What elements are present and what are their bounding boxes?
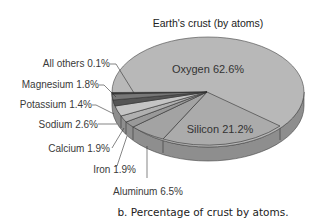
chart-title: Earth's crust (by atoms) xyxy=(153,17,264,29)
label-magnesium: Magnesium 1.8% xyxy=(22,79,99,90)
pie-chart: Earth's crust (by atoms) Oxygen 62.6% Si… xyxy=(0,0,320,221)
label-silicon: Silicon 21.2% xyxy=(187,123,254,135)
label-calcium: Calcium 1.9% xyxy=(48,143,110,154)
label-iron: Iron 1.9% xyxy=(93,164,136,175)
label-aluminum: Aluminum 6.5% xyxy=(113,186,183,197)
figure-caption: b. Percentage of crust by atoms. xyxy=(117,206,288,218)
label-sodium: Sodium 2.6% xyxy=(39,119,99,130)
label-potassium: Potassium 1.4% xyxy=(20,99,92,110)
label-oxygen: Oxygen 62.6% xyxy=(172,63,244,75)
label-others: All others 0.1% xyxy=(43,58,110,69)
